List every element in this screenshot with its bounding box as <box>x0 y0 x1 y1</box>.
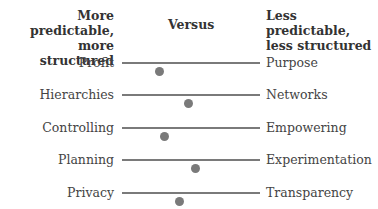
position-marker <box>155 67 164 76</box>
spectrum-row-hierarchies-networks: Hierarchies Networks <box>0 85 378 105</box>
position-marker <box>175 197 184 206</box>
left-label: Profit <box>79 53 114 73</box>
left-label: Privacy <box>67 183 114 203</box>
spectrum-track <box>122 159 260 161</box>
left-label: Hierarchies <box>39 85 114 105</box>
spectrum-track <box>122 127 260 129</box>
left-label: Controlling <box>42 118 114 138</box>
right-label: Experimentation <box>266 150 372 170</box>
right-label: Networks <box>266 85 328 105</box>
right-column-header: Less predictable, less structured <box>266 8 378 53</box>
right-label: Transparency <box>266 183 353 203</box>
right-label: Purpose <box>266 53 318 73</box>
right-header-line1: Less predictable, <box>266 8 378 38</box>
spectrum-row-profit-purpose: Profit Purpose <box>0 53 378 73</box>
position-marker <box>160 132 169 141</box>
versus-header: Versus <box>168 17 214 32</box>
right-label: Empowering <box>266 118 347 138</box>
spectrum-track <box>122 94 260 96</box>
position-marker <box>191 164 200 173</box>
position-marker <box>184 99 193 108</box>
left-header-line1: More predictable, <box>0 8 114 38</box>
spectrum-row-controlling-empowering: Controlling Empowering <box>0 118 378 138</box>
spectrum-row-planning-experimentation: Planning Experimentation <box>0 150 378 170</box>
left-label: Planning <box>58 150 114 170</box>
right-header-line2: less structured <box>266 38 378 53</box>
spectrum-row-privacy-transparency: Privacy Transparency <box>0 183 378 203</box>
spectrum-track <box>122 192 260 194</box>
spectrum-track <box>122 62 260 64</box>
